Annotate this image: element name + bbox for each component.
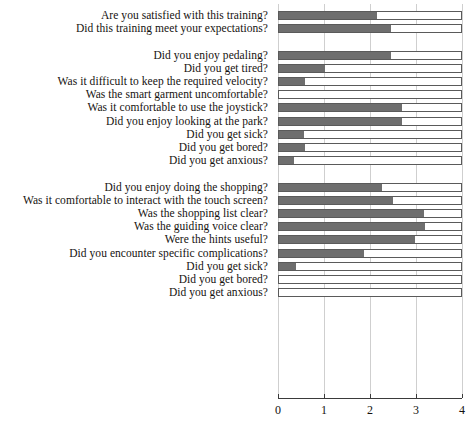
bar-track	[278, 117, 462, 126]
bar-track	[278, 130, 462, 139]
category-label: Was it comfortable to interact with the …	[0, 195, 268, 206]
bar-track	[278, 183, 462, 192]
bar-fill	[279, 144, 305, 151]
x-axis-tick	[416, 394, 417, 398]
bar-fill	[279, 250, 364, 257]
bar-fill	[279, 78, 305, 85]
bar-track	[278, 288, 462, 297]
bar-fill	[279, 210, 424, 217]
category-label: Was it comfortable to use the joystick?	[0, 102, 268, 113]
x-axis-tick-label: 3	[406, 404, 426, 416]
bar-track	[278, 222, 462, 231]
gridline-4	[462, 4, 463, 398]
bar-fill	[279, 236, 415, 243]
bar-fill	[279, 65, 325, 72]
bar-track	[278, 51, 462, 60]
category-label: Was it difficult to keep the required ve…	[0, 76, 268, 87]
category-label: Did you get anxious?	[0, 155, 268, 166]
x-axis-tick	[324, 394, 325, 398]
x-axis-tick	[370, 394, 371, 398]
x-axis-tick	[462, 394, 463, 398]
bar-fill	[279, 197, 393, 204]
category-label: Did you enjoy pedaling?	[0, 50, 268, 61]
x-axis-tick-label: 2	[360, 404, 380, 416]
bar-fill	[279, 223, 425, 230]
category-label: Was the shopping list clear?	[0, 208, 268, 219]
category-label: Were the hints useful?	[0, 234, 268, 245]
bar-fill	[279, 25, 391, 32]
bar-track	[278, 103, 462, 112]
x-axis-tick-label: 0	[268, 404, 288, 416]
x-axis-tick-label: 1	[314, 404, 334, 416]
category-label: Did you get anxious?	[0, 287, 268, 298]
bar-track	[278, 77, 462, 86]
category-label: Did you get sick?	[0, 261, 268, 272]
bar-track	[278, 262, 462, 271]
horizontal-bar-chart: Are you satisfied with this training?Did…	[0, 0, 471, 435]
bar-fill	[279, 104, 402, 111]
bar-track	[278, 156, 462, 165]
category-label: Did you get bored?	[0, 274, 268, 285]
category-label: Are you satisfied with this training?	[0, 10, 268, 21]
bar-track	[278, 275, 462, 284]
bar-track	[278, 209, 462, 218]
bar-track	[278, 249, 462, 258]
bar-fill	[279, 12, 377, 19]
bar-track	[278, 24, 462, 33]
category-label: Did you enjoy looking at the park?	[0, 116, 268, 127]
bar-fill	[279, 118, 402, 125]
bar-fill	[279, 52, 391, 59]
category-label: Did you get tired?	[0, 63, 268, 74]
bar-fill	[279, 263, 296, 270]
category-label: Did you get bored?	[0, 142, 268, 153]
x-axis-tick-label: 4	[452, 404, 471, 416]
category-label: Did you get sick?	[0, 129, 268, 140]
bar-track	[278, 64, 462, 73]
bar-fill	[279, 131, 304, 138]
bar-track	[278, 196, 462, 205]
bar-track	[278, 143, 462, 152]
category-label: Was the smart garment uncomfortable?	[0, 89, 268, 100]
x-axis-line	[278, 398, 462, 399]
category-label: Did you enjoy doing the shopping?	[0, 182, 268, 193]
category-label: Was the guiding voice clear?	[0, 221, 268, 232]
category-label: Did this training meet your expectations…	[0, 23, 268, 34]
bar-fill	[279, 184, 382, 191]
bar-track	[278, 235, 462, 244]
bar-track	[278, 90, 462, 99]
bar-track	[278, 11, 462, 20]
bar-fill	[279, 157, 294, 164]
x-axis-tick	[278, 394, 279, 398]
category-label: Did you encounter specific complications…	[0, 248, 268, 259]
